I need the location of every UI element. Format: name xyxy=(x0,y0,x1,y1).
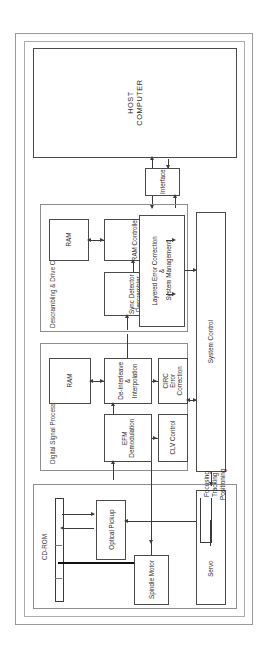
clv-control-unit: CLV Control xyxy=(158,414,188,462)
host-computer-text: HOST COMPUTER xyxy=(126,80,143,126)
host-computer-line-1: HOST xyxy=(125,92,134,115)
arrowhead-beam-to-disc xyxy=(60,526,64,530)
arrowhead-layeredec-to-interface xyxy=(173,194,177,198)
beam-disc-to-pickup xyxy=(62,514,94,515)
interface-text: Interface xyxy=(159,170,166,195)
ram-dsp-unit: RAM xyxy=(49,358,91,404)
arrowhead-clv-to-spindle xyxy=(149,540,153,544)
layered-ec-text: Layered Error Correction & System Manage… xyxy=(151,236,173,305)
arrowhead-to-ramcontroller xyxy=(100,238,104,242)
group-cdrom-title: CD-ROM xyxy=(41,534,48,560)
arrowhead-interface-to-host xyxy=(150,156,154,160)
ram-controller-unit: RAM xyxy=(49,219,89,261)
spindle-motor-text: Spindle Motor xyxy=(148,561,155,600)
arrowhead-to-deinterleave xyxy=(100,379,104,383)
sync-detector-l1: Sync Detector xyxy=(128,274,135,314)
ram-dsp-text: RAM xyxy=(66,374,73,388)
system-control-unit: System Control xyxy=(196,212,226,472)
efm-l2: Demodulation xyxy=(128,419,135,458)
layered-error-correction-unit-real: Layered Error Correction & System Manage… xyxy=(139,215,185,327)
ram-controller-main-text: RAM Controller xyxy=(131,219,138,261)
host-computer-line-2: COMPUTER xyxy=(134,80,143,126)
connector-dsp-to-sync xyxy=(127,316,128,330)
deinterleave-l3: Interpolation xyxy=(132,364,139,399)
deinterleave-l2: & xyxy=(124,379,131,383)
arrowhead-systemcontrol-to-dsp xyxy=(186,398,190,402)
connector-pickup-to-efm xyxy=(113,462,114,480)
arrowhead-to-ram xyxy=(87,238,91,242)
spindle-motor-unit: Spindle Motor xyxy=(134,555,169,605)
arrowhead-deinterleave-to-circ xyxy=(153,379,157,383)
servo-bracket-stem xyxy=(210,520,211,546)
deinterleave-unit: De-Interleave & Interpolation xyxy=(104,358,152,404)
deinterleave-text: De-Interleave & Interpolation xyxy=(117,362,139,400)
arrowhead-beam-to-pickup xyxy=(91,512,95,516)
diagram-sheet: HOST COMPUTER Interface Descrambling & D… xyxy=(0,0,267,664)
efm-demodulation-unit: EFM Demodulation xyxy=(104,414,152,462)
arrowhead-syncdetector-ramcontroller xyxy=(131,259,135,263)
clv-text: CLV Control xyxy=(169,421,176,455)
arrowhead-efm-to-clv xyxy=(153,436,157,440)
deinterleave-l1: De-Interleave xyxy=(117,362,124,400)
connector-deinterleave-to-descrambling xyxy=(127,334,128,358)
interface-unit: Interface xyxy=(145,168,180,196)
circ-l3: Correction xyxy=(177,366,184,395)
optical-pickup-unit: Optical Pickup xyxy=(96,500,126,560)
efm-text: EFM Demodulation xyxy=(121,419,135,458)
arrowhead-efm-to-deinterleave-up xyxy=(111,402,115,406)
disc-hub-tick-top xyxy=(55,545,62,546)
system-control-text: System Control xyxy=(207,320,214,363)
arrowhead-servo-to-pickup xyxy=(124,519,128,523)
connector-servo-to-pickup xyxy=(126,521,196,522)
host-computer: HOST COMPUTER xyxy=(33,48,237,158)
beam-pickup-to-disc xyxy=(62,528,94,529)
servo-function-tracking: Tracking xyxy=(211,473,218,497)
servo-function-positioning: Positioning xyxy=(219,469,226,500)
arrowhead-to-ramdsp xyxy=(89,379,93,383)
servo-function-focusing: Focusing xyxy=(203,471,210,497)
circ-unit: CIRC Error Correction xyxy=(158,358,188,404)
ram-controller-text: RAM xyxy=(65,233,72,247)
arrowhead-dsp-to-sync xyxy=(125,314,129,318)
arrowhead-pickup-to-efm xyxy=(111,460,115,464)
disc-hub-tick-bottom xyxy=(55,578,62,579)
circ-text: CIRC Error Correction xyxy=(162,366,184,395)
arrowhead-sync-to-lec xyxy=(172,292,176,296)
connector-interface-to-host xyxy=(152,159,153,168)
optical-pickup-text: Optical Pickup xyxy=(107,510,114,550)
arrowhead-ramcontroller-to-lec xyxy=(172,238,176,242)
servo-text: Servo xyxy=(207,560,214,576)
group-dsp-title: Digital Signal Processing xyxy=(49,394,56,464)
spindle-shaft xyxy=(58,562,134,564)
efm-l1: EFM xyxy=(121,431,128,444)
